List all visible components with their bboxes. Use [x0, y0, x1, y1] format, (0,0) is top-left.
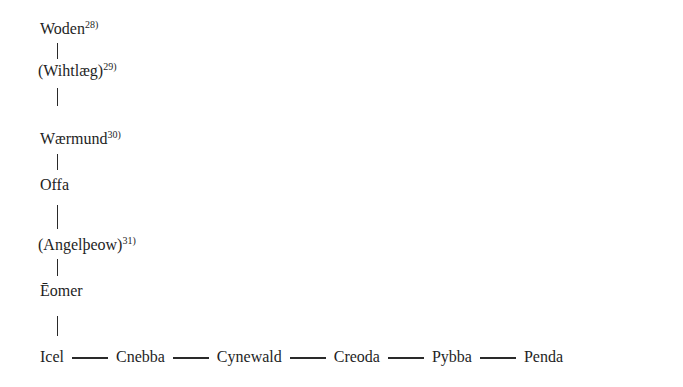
horizontal-lineage: Icel Cnebba Cynewald Creoda Pybba Penda — [40, 348, 563, 366]
node-label: Wærmund — [40, 130, 108, 147]
connector-line — [57, 259, 58, 276]
connector-line — [57, 316, 58, 336]
node-wihtlaeg: (Wihtlæg)29) — [38, 62, 116, 80]
node-icel: Icel — [40, 348, 64, 366]
node-cynewald: Cynewald — [217, 348, 282, 366]
footnote-marker: 31) — [122, 235, 135, 246]
node-angelpeow: (Angelþeow)31) — [38, 236, 136, 254]
node-creoda: Creoda — [334, 348, 380, 366]
node-pybba: Pybba — [432, 348, 472, 366]
node-label: (Wihtlæg) — [38, 62, 103, 79]
connector-line — [72, 357, 108, 358]
connector-line — [480, 357, 516, 358]
node-label: Woden — [40, 20, 85, 37]
connector-line — [57, 88, 58, 106]
node-offa: Offa — [40, 176, 69, 194]
connector-line — [290, 357, 326, 358]
node-waermund: Wærmund30) — [40, 130, 121, 148]
connector-line — [57, 43, 58, 59]
node-penda: Penda — [524, 348, 563, 366]
node-cnebba: Cnebba — [116, 348, 165, 366]
node-eomer: Ēomer — [40, 282, 83, 300]
node-label: Ēomer — [40, 282, 83, 299]
footnote-marker: 29) — [103, 61, 116, 72]
connector-line — [173, 357, 209, 358]
node-label: (Angelþeow) — [38, 236, 122, 253]
node-woden: Woden28) — [40, 20, 98, 38]
connector-line — [57, 154, 58, 170]
footnote-marker: 28) — [85, 19, 98, 30]
node-label: Offa — [40, 176, 69, 193]
footnote-marker: 30) — [108, 129, 121, 140]
connector-line — [57, 205, 58, 229]
connector-line — [388, 357, 424, 358]
